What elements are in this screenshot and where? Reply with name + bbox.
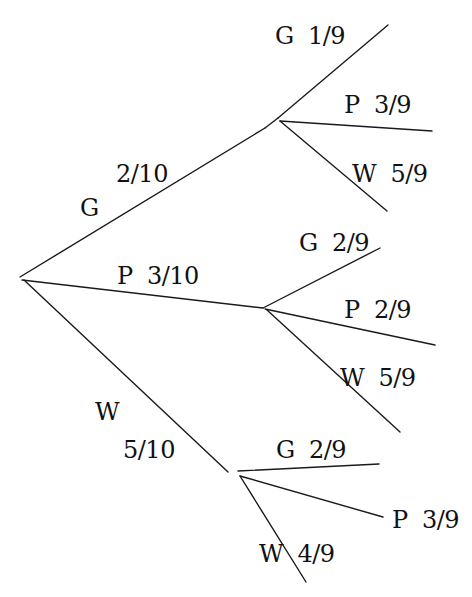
label-p-g: G 2/9 — [299, 231, 369, 255]
label-g-w: W 5/9 — [352, 162, 428, 186]
label-g-p: P 3/9 — [344, 93, 411, 117]
label-w-outcome: W — [95, 400, 119, 424]
label-p-p: P 2/9 — [344, 298, 411, 322]
label-p-w: W 5/9 — [340, 366, 416, 390]
label-g-outcome: G — [80, 196, 99, 220]
label-w-g: G 2/9 — [276, 438, 346, 462]
branch-g-p — [280, 121, 432, 131]
label-g-probability: 2/10 — [116, 162, 168, 186]
label-w-p: P 3/9 — [392, 508, 459, 532]
branch-g — [20, 128, 265, 277]
label-w-probability: 5/10 — [123, 438, 175, 462]
branch-g-kink — [265, 118, 278, 128]
label-g-g: G 1/9 — [275, 24, 345, 48]
label-w-w: W 4/9 — [259, 542, 335, 566]
label-p-branch: P 3/10 — [117, 264, 199, 288]
branch-w-g — [238, 464, 379, 471]
